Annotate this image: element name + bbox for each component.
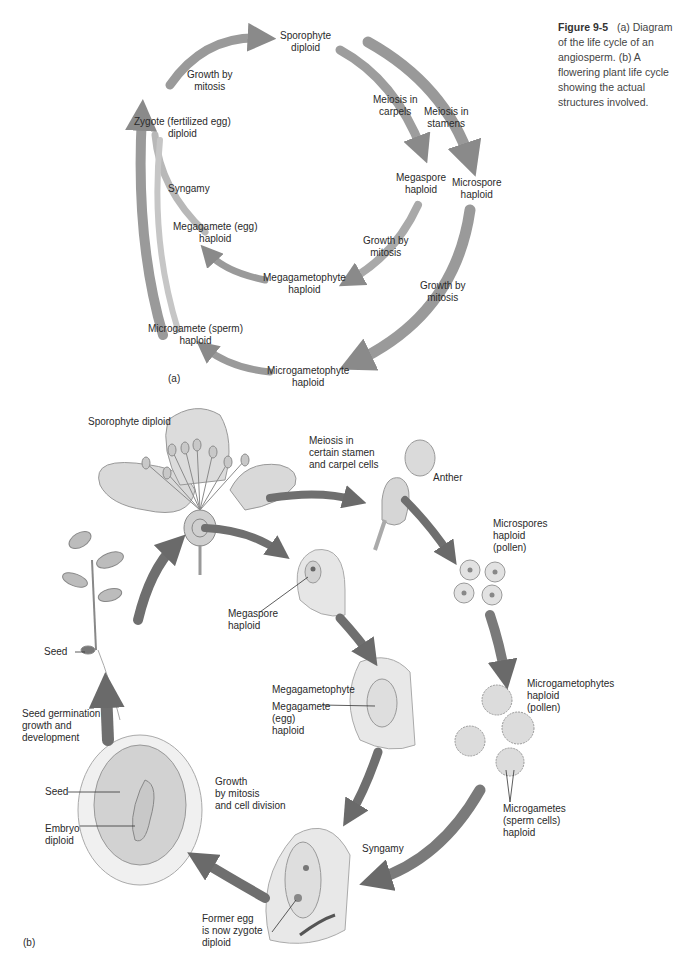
arrow-microgametophyte-to-microgamete [205, 348, 270, 372]
megaspore-ovule [297, 550, 345, 617]
label-microgametes: Microgametes(sperm cells)haploid [503, 803, 566, 839]
label-microgametophytes: Microgametophyteshaploid(pollen) [527, 678, 614, 714]
process-syngamy: Syngamy [168, 183, 210, 195]
process-growth-top: Growth bymitosis [187, 69, 233, 93]
arrow-flower-to-megaspore [205, 528, 280, 552]
node-microgametophyte: Microgametophytehaploid [267, 365, 349, 389]
panel-a-label: (a) [168, 373, 180, 385]
label-microspores: Microsporeshaploid(pollen) [493, 518, 547, 554]
microgametophytes-pollen [455, 685, 534, 776]
node-megagamete: Megagamete (egg)haploid [173, 221, 258, 245]
arrow-seedling-to-flower [138, 545, 175, 620]
node-megagametophyte: Megagametophytehaploid [263, 272, 346, 296]
label-seed: Seed [45, 786, 68, 798]
label-embryo: Embryodiploid [45, 823, 79, 847]
arrow-flower-to-anther [270, 494, 355, 500]
arrow-microspores-to-microgametophytes [490, 615, 505, 675]
figure-caption-text: (a) Diagram of the life cycle of an angi… [558, 21, 672, 108]
flower-illustration [99, 409, 296, 575]
process-meiosis-stamens: Meiosis instamens [424, 106, 468, 130]
panel-b-label: (b) [23, 937, 35, 949]
node-microgamete: Microgamete (sperm)haploid [148, 323, 243, 347]
arrow-anther-to-microspores [405, 500, 450, 555]
label-anther: Anther [433, 472, 462, 484]
arrow-zygote-to-seed [200, 860, 265, 898]
anther-illustration [375, 440, 435, 550]
seed-illustration [78, 735, 202, 885]
node-zygote: Zygote (fertilized egg)diploid [134, 116, 231, 140]
arrow-microgametes-to-zygote [375, 790, 480, 880]
label-meiosis: Meiosis incertain stamenand carpel cells [309, 435, 378, 471]
label-megagametophyte: Megagametophyte [272, 684, 355, 696]
microspores-pollen [454, 560, 505, 605]
seedling-plant [61, 528, 126, 720]
node-sporophyte: Sporophytediploid [280, 30, 331, 54]
megagametophyte-ovule [350, 658, 415, 749]
arrow-megagametophyte-to-zygote [350, 752, 378, 815]
node-megaspore: Megasporehaploid [396, 172, 446, 196]
label-sporophyte-diploid: Sporophyte diploid [88, 416, 171, 428]
process-growth-micro: Growth bymitosis [420, 280, 466, 304]
figure-caption: Figure 9-5 (a) Diagram of the life cycle… [558, 20, 683, 110]
arrow-seed-to-seedling [106, 690, 108, 740]
label-megaspore: Megasporehaploid [228, 608, 278, 632]
arrow-megagametophyte-to-megagamete [208, 253, 265, 280]
label-seed-germination: Seed germinationgrowth anddevelopment [22, 708, 100, 744]
label-seed-seedling: Seed [44, 646, 67, 658]
figure-label: Figure 9-5 [558, 21, 608, 33]
node-microspore: Microsporehaploid [452, 177, 501, 201]
label-megagamete: Megagamete(egg)haploid [272, 701, 330, 737]
label-syngamy: Syngamy [362, 843, 404, 855]
label-growth: Growthby mitosisand cell division [215, 776, 286, 812]
process-growth-mega: Growth bymitosis [363, 235, 409, 259]
process-meiosis-carpels: Meiosis incarpels [373, 94, 417, 118]
label-former-egg: Former eggis now zygotediploid [202, 913, 263, 949]
diagram-canvas [0, 0, 684, 967]
arrow-megaspore-to-megagametophyte [340, 618, 370, 655]
zygote-ovule [266, 828, 350, 943]
